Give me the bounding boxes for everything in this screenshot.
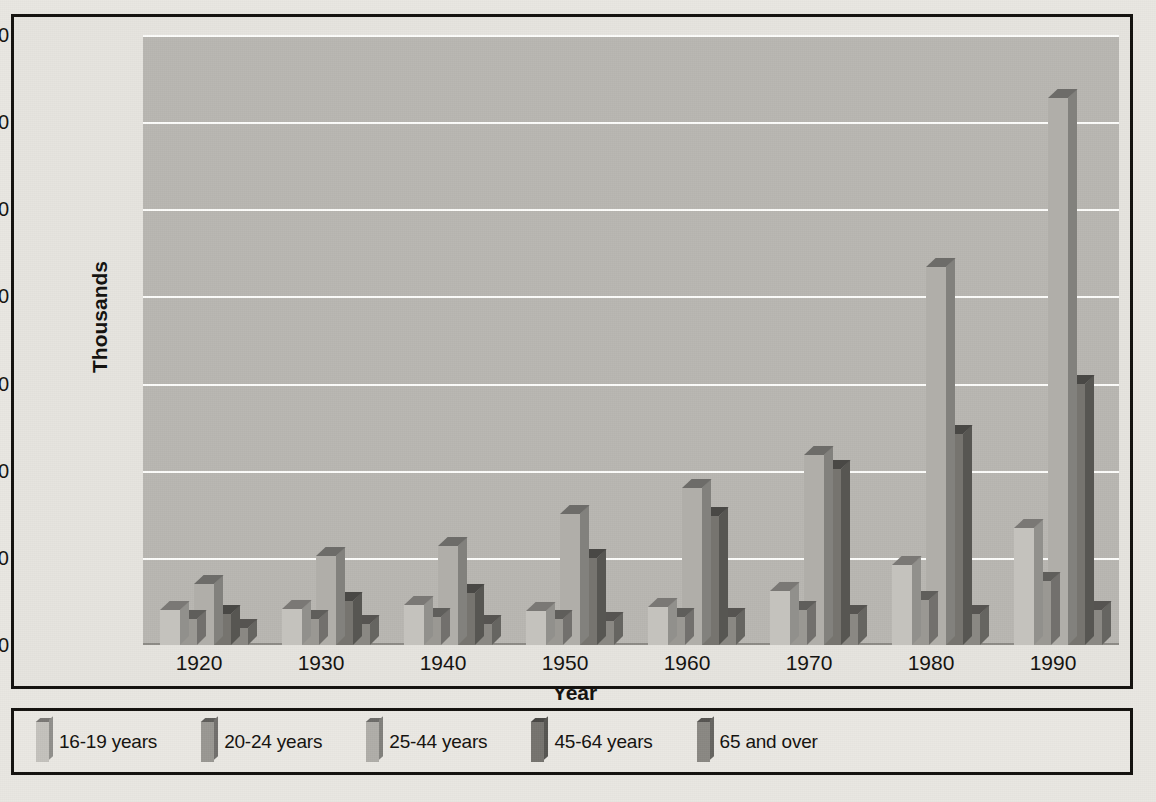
bar-front-face <box>926 267 946 645</box>
bar-side-face <box>1051 572 1060 645</box>
x-axis-tick-label: 1920 <box>139 651 259 675</box>
bar <box>160 610 180 645</box>
y-axis-tick-label: 0 <box>0 634 9 657</box>
bar-side-face <box>597 549 606 645</box>
legend-swatch <box>697 722 710 762</box>
y-axis-title-wrapper: Thousands <box>88 261 112 373</box>
bar <box>282 609 302 645</box>
bar-side-face <box>336 547 345 645</box>
x-axis-tick-label: 1980 <box>871 651 991 675</box>
y-axis-tick-label: 15,000 <box>0 372 9 395</box>
x-axis-tick-label: 1960 <box>627 651 747 675</box>
legend-swatch-side <box>49 716 53 760</box>
bar <box>404 605 424 645</box>
bar-side-face <box>475 584 484 645</box>
legend-label: 16-19 years <box>59 731 157 753</box>
y-axis-tick-label: 5,000 <box>0 546 9 569</box>
bar <box>526 611 546 645</box>
bar <box>1014 528 1034 645</box>
y-axis-tick-label: 30,000 <box>0 111 9 134</box>
gridline <box>143 209 1119 211</box>
gridline <box>143 558 1119 560</box>
gridline <box>143 35 1119 37</box>
bar-front-face <box>648 607 668 645</box>
chart-frame: Thousands 05,00010,00015,00020,00025,000… <box>11 14 1133 689</box>
x-axis-tick-label: 1950 <box>505 651 625 675</box>
bar <box>892 565 912 645</box>
gridline <box>143 122 1119 124</box>
bar-side-face <box>1085 375 1094 645</box>
legend-swatch <box>531 722 544 762</box>
legend-swatch <box>36 722 49 762</box>
bar <box>1048 98 1068 645</box>
bar-side-face <box>719 507 728 645</box>
bar-side-face <box>946 258 955 645</box>
y-axis-tick-label: 25,000 <box>0 198 9 221</box>
legend-swatch <box>201 722 214 762</box>
bar-side-face <box>841 460 850 645</box>
legend-item[interactable]: 65 and over <box>697 722 818 762</box>
bar-front-face <box>1014 528 1034 645</box>
legend-swatch-side <box>379 716 383 760</box>
bar-front-face <box>404 605 424 645</box>
bar <box>770 591 790 645</box>
plot-area <box>143 35 1119 645</box>
legend-label: 20-24 years <box>224 731 322 753</box>
y-axis-tick-label: 10,000 <box>0 459 9 482</box>
legend-swatch-side <box>710 716 714 760</box>
bar-side-face <box>1034 519 1043 645</box>
bar-side-face <box>580 505 589 645</box>
x-axis-tick-label: 1930 <box>261 651 381 675</box>
bar-front-face <box>892 565 912 645</box>
gridline <box>143 471 1119 473</box>
gridline <box>143 384 1119 386</box>
legend-item[interactable]: 16-19 years <box>36 722 157 762</box>
legend-swatch-side <box>214 716 218 760</box>
legend-item[interactable]: 20-24 years <box>201 722 322 762</box>
legend-label: 65 and over <box>720 731 818 753</box>
bar-side-face <box>353 592 362 645</box>
bar-side-face <box>824 446 833 645</box>
y-axis-tick-label: 35,000 <box>0 24 9 47</box>
bar-side-face <box>458 537 467 645</box>
legend-label: 45-64 years <box>554 731 652 753</box>
y-axis-tick-label: 20,000 <box>0 285 9 308</box>
legend-swatch-side <box>544 716 548 760</box>
bar-side-face <box>963 425 972 645</box>
y-axis-title: Thousands <box>88 261 112 373</box>
bar-front-face <box>282 609 302 645</box>
gridline <box>143 296 1119 298</box>
bar-front-face <box>1048 98 1068 645</box>
x-axis-tick-label: 1990 <box>993 651 1113 675</box>
legend-swatch <box>366 722 379 762</box>
bar-side-face <box>702 479 711 645</box>
bar-side-face <box>790 582 799 645</box>
x-axis-tick-label: 1970 <box>749 651 869 675</box>
bar <box>648 607 668 645</box>
bar-front-face <box>526 611 546 645</box>
legend-item[interactable]: 25-44 years <box>366 722 487 762</box>
legend-item[interactable]: 45-64 years <box>531 722 652 762</box>
bar <box>926 267 946 645</box>
legend: 16-19 years20-24 years25-44 years45-64 y… <box>11 708 1133 775</box>
x-axis-tick-label: 1940 <box>383 651 503 675</box>
bar-side-face <box>912 556 921 645</box>
legend-label: 25-44 years <box>389 731 487 753</box>
bar-front-face <box>770 591 790 645</box>
x-axis-title: Year <box>14 681 1136 705</box>
bar-front-face <box>160 610 180 645</box>
bar-side-face <box>1068 89 1077 645</box>
bar-side-face <box>214 575 223 645</box>
